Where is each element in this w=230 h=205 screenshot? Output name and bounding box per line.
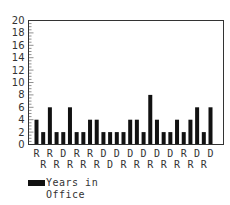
bar: [209, 107, 213, 144]
y-tick-label: 2: [18, 127, 24, 138]
x-category-label: D: [141, 148, 147, 159]
y-tick-label: 12: [12, 65, 25, 76]
x-category-label: D: [100, 148, 106, 159]
x-category-label: R: [187, 159, 194, 170]
bar: [122, 132, 126, 144]
y-tick-label: 8: [18, 89, 24, 100]
x-category-label: D: [167, 148, 173, 159]
bar: [81, 132, 85, 144]
bar: [202, 132, 206, 144]
bar-chart: 02468101214161820 RRRRDRRRRRDDDRDRDRDRDR…: [0, 0, 230, 205]
x-category-label: R: [33, 148, 40, 159]
bar: [101, 132, 105, 144]
x-category-label: R: [94, 159, 101, 170]
x-category-label: D: [194, 148, 200, 159]
x-category-label: D: [114, 148, 120, 159]
x-category-label: D: [154, 148, 160, 159]
x-category-label: R: [201, 159, 208, 170]
bar: [35, 120, 39, 145]
legend: Years in Office: [28, 177, 98, 200]
bar: [148, 95, 152, 145]
legend-swatch: [28, 180, 45, 186]
bar: [168, 132, 172, 144]
x-category-label: R: [120, 159, 127, 170]
x-category-label: D: [107, 159, 113, 170]
plot-frame: [29, 21, 224, 145]
bar: [142, 132, 146, 144]
y-tick-label: 16: [12, 40, 25, 51]
legend-label-line1: Years in: [46, 177, 98, 188]
bar: [75, 132, 79, 144]
x-category-label: R: [47, 148, 54, 159]
legend-label-line2: Office: [46, 189, 85, 200]
bar: [61, 132, 65, 144]
x-category-label: R: [147, 159, 154, 170]
bar: [182, 132, 186, 144]
x-category-label: D: [127, 148, 133, 159]
bar: [128, 120, 132, 145]
bar: [68, 107, 72, 144]
y-tick-label: 18: [12, 27, 25, 38]
x-category-label: D: [60, 148, 66, 159]
x-category-label: R: [80, 159, 87, 170]
bar: [175, 120, 179, 145]
bar: [41, 132, 45, 144]
x-axis-labels: RRRRDRRRRRDDDRDRDRDRDRRRDRD: [33, 148, 213, 170]
bar: [48, 107, 52, 144]
x-category-label: R: [54, 159, 61, 170]
x-category-label: D: [207, 148, 213, 159]
y-tick-label: 0: [18, 139, 24, 150]
y-tick-label: 14: [12, 52, 25, 63]
bars: [35, 95, 213, 145]
x-category-label: R: [40, 159, 47, 170]
bar: [195, 107, 199, 144]
x-category-label: R: [161, 159, 168, 170]
x-category-label: R: [67, 159, 74, 170]
x-category-label: R: [181, 148, 188, 159]
y-tick-label: 4: [18, 114, 24, 125]
y-tick-label: 20: [12, 15, 25, 26]
y-tick-label: 6: [18, 102, 24, 113]
x-category-label: R: [134, 159, 141, 170]
x-category-label: R: [174, 159, 181, 170]
bar: [162, 132, 166, 144]
bar: [135, 120, 139, 145]
bar: [155, 120, 159, 145]
bar: [55, 132, 59, 144]
y-axis: 02468101214161820: [12, 15, 34, 150]
bar: [88, 120, 92, 145]
y-tick-label: 10: [12, 77, 25, 88]
x-category-label: R: [87, 148, 94, 159]
bar: [188, 120, 192, 145]
x-category-label: R: [74, 148, 81, 159]
bar: [115, 132, 119, 144]
bar: [108, 132, 112, 144]
bar: [95, 120, 99, 145]
